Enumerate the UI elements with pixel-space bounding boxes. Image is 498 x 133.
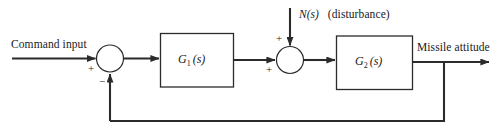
disturbance-symbol: N(s) (299, 8, 319, 20)
block-g1-label: G1(s) (178, 52, 205, 68)
disturbance-note: (disturbance) (323, 8, 390, 20)
sum1-plus-sign: + (88, 63, 94, 74)
block-g1-arg: (s) (191, 52, 206, 66)
block-g2-arg: (s) (368, 54, 383, 68)
block-g2-label: G2(s) (355, 54, 382, 70)
command-input-label: Command input (11, 38, 87, 50)
missile-attitude-label: Missile attitude (417, 41, 490, 53)
block-g2-base: G (355, 54, 364, 68)
diagram-canvas (0, 0, 498, 133)
summing-junction-1 (97, 45, 124, 72)
disturbance-label: N(s) (disturbance) (299, 4, 390, 22)
sum2-plus-sign-disturbance: + (276, 33, 282, 44)
block-g1-base: G (178, 52, 187, 66)
sum1-minus-sign: − (99, 76, 105, 87)
summing-junction-2 (277, 47, 304, 74)
sum2-plus-sign-input: + (266, 64, 272, 75)
block-diagram: Command input N(s) (disturbance) Missile… (0, 0, 498, 133)
